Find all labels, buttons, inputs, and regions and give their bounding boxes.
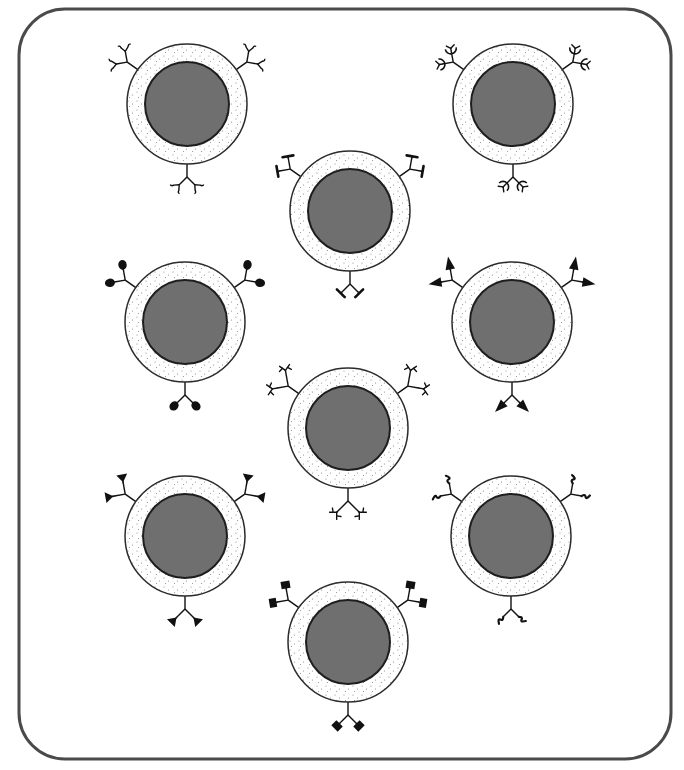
receptor-ball-upper-left: [104, 259, 136, 288]
cell-nucleus: [471, 62, 555, 146]
cell-6: Cell with branched receptors: [267, 365, 430, 520]
receptor-ball-bottom: [168, 382, 203, 412]
cell-8: Cell with squiggle-tipped receptors: [433, 475, 590, 624]
diagram-figure: Cell with forked Y-shaped receptorsCell …: [0, 0, 684, 770]
receptor-triangle-bottom: [167, 596, 203, 627]
receptor-squiggle-upper-left: [433, 476, 462, 502]
cell-nucleus: [470, 280, 554, 364]
receptor-t-bar-bottom: [337, 271, 363, 297]
receptor-t-bar-upper-right: [399, 155, 423, 176]
receptor-squiggle-upper-right: [560, 475, 590, 502]
cell-7: Cell with triangle-tipped receptors: [105, 473, 266, 627]
cell-receptor-diagram: Cell with forked Y-shaped receptorsCell …: [0, 0, 684, 770]
receptor-branched-bottom: [330, 488, 367, 519]
receptor-branched-upper-left: [267, 365, 299, 395]
cell-4: Cell with ball-tipped receptors: [104, 259, 265, 412]
receptor-ball-upper-right: [234, 259, 266, 288]
receptor-forked-y-upper-left: [109, 44, 138, 71]
receptor-hook-bottom: [498, 164, 528, 192]
cell-nucleus: [469, 494, 553, 578]
cells-group: Cell with forked Y-shaped receptorsCell …: [104, 44, 595, 732]
receptor-forked-y-bottom: [170, 164, 203, 194]
receptor-square-upper-left: [269, 581, 299, 608]
cell-nucleus: [306, 386, 390, 470]
cell-nucleus: [145, 62, 229, 146]
receptor-arrow-upper-left: [429, 256, 463, 287]
receptor-forked-y-upper-right: [236, 44, 265, 71]
cell-1: Cell with forked Y-shaped receptors: [109, 44, 265, 194]
receptor-square-bottom: [331, 702, 364, 732]
receptor-triangle-upper-left: [105, 473, 136, 503]
receptor-hook-upper-left: [436, 45, 464, 70]
receptor-square-upper-right: [397, 581, 427, 608]
receptor-squiggle-bottom: [499, 596, 526, 624]
receptor-arrow-bottom: [495, 382, 529, 412]
cell-5: Cell with arrow-tipped receptors: [429, 256, 596, 411]
cell-2: Cell with hook/claw receptors: [436, 44, 590, 192]
cell-9: Cell with square-tipped receptors: [269, 581, 428, 732]
cell-nucleus: [143, 280, 227, 364]
cell-nucleus: [143, 494, 227, 578]
receptor-hook-upper-right: [562, 45, 590, 70]
receptor-branched-upper-right: [397, 365, 429, 395]
cell-nucleus: [308, 169, 392, 253]
cell-nucleus: [306, 600, 390, 684]
receptor-t-bar-upper-left: [276, 155, 300, 176]
cell-3: Cell with T-bar receptors: [276, 151, 423, 297]
receptor-triangle-upper-right: [234, 473, 265, 503]
receptor-arrow-upper-right: [561, 256, 595, 287]
